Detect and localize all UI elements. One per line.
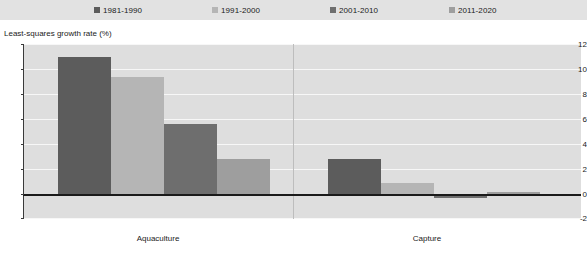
y-tick-label: 6 xyxy=(569,116,587,124)
y-tick-label: 12 xyxy=(569,41,587,49)
y-tick-label: 4 xyxy=(569,141,587,149)
group-divider xyxy=(293,44,294,219)
y-tick-label: -2 xyxy=(569,215,587,223)
y-tick-mark xyxy=(21,218,24,219)
y-tick-label: 8 xyxy=(569,91,587,99)
legend-item-label: 2001-2010 xyxy=(339,6,378,15)
y-tick-label: 2 xyxy=(569,166,587,174)
legend-swatch-icon xyxy=(330,7,336,13)
y-tick-mark xyxy=(21,69,24,70)
y-tick-mark xyxy=(21,169,24,170)
legend-item: 2001-2010 xyxy=(330,4,378,16)
y-tick-label: 0 xyxy=(569,191,587,199)
legend-swatch-icon xyxy=(449,7,455,13)
chart-legend: 1981-1990 1991-2000 2001-2010 2011-2020 xyxy=(0,0,587,20)
legend-item: 2011-2020 xyxy=(449,4,497,16)
legend-item: 1991-2000 xyxy=(212,4,260,16)
x-category-label-aquaculture: Aquaculture xyxy=(103,234,213,243)
bar-aquaculture-2001-2010 xyxy=(164,124,217,194)
y-tick-mark xyxy=(21,94,24,95)
zero-baseline xyxy=(23,194,581,196)
gridline xyxy=(24,44,581,45)
y-tick-label: 10 xyxy=(569,66,587,74)
legend-swatch-icon xyxy=(212,7,218,13)
y-tick-mark xyxy=(21,144,24,145)
legend-item-label: 1981-1990 xyxy=(103,6,142,15)
legend-item-label: 1991-2000 xyxy=(221,6,260,15)
y-tick-mark xyxy=(21,194,24,195)
bar-aquaculture-2011-2020 xyxy=(217,159,270,194)
legend-item-label: 2011-2020 xyxy=(458,6,497,15)
bar-aquaculture-1981-1990 xyxy=(58,57,111,195)
legend-item: 1981-1990 xyxy=(94,4,142,16)
plot-area xyxy=(24,44,581,219)
y-axis-line xyxy=(23,44,24,219)
bar-capture-1981-1990 xyxy=(328,159,381,194)
bar-aquaculture-1991-2000 xyxy=(111,77,164,195)
y-tick-mark xyxy=(21,44,24,45)
gridline xyxy=(24,218,581,219)
bar-chart: 12 10 8 6 4 2 0 -2 Aquaculture Capture xyxy=(0,44,587,229)
y-axis-title: Least-squares growth rate (%) xyxy=(4,29,112,39)
x-category-label-capture: Capture xyxy=(372,234,482,243)
bar-capture-1991-2000 xyxy=(381,183,434,194)
legend-swatch-icon xyxy=(94,7,100,13)
y-tick-mark xyxy=(21,119,24,120)
